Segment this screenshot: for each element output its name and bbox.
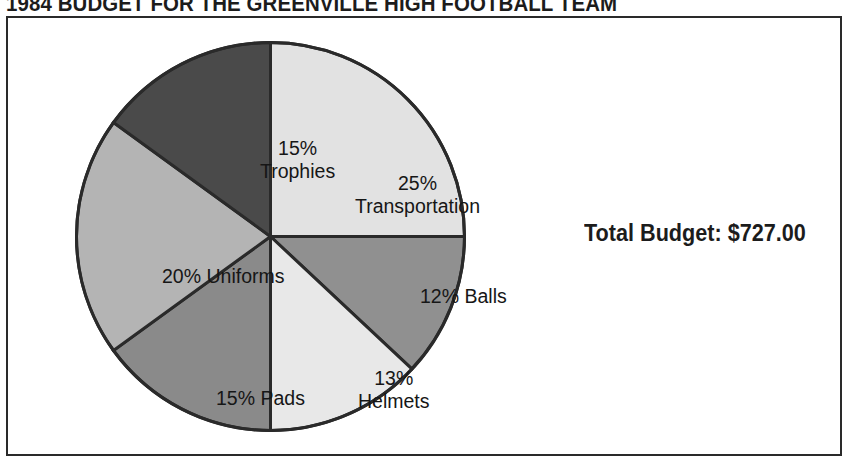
slice-label-balls: 12% Balls bbox=[420, 285, 507, 308]
slice-label-helmets: 13% Helmets bbox=[358, 367, 430, 413]
slice-pct-pads: 15% bbox=[216, 387, 255, 409]
total-budget-text: Total Budget: $727.00 bbox=[584, 218, 806, 248]
slice-pct-trophies: 15% bbox=[260, 137, 335, 160]
slice-cat-pads: Pads bbox=[255, 387, 305, 409]
slice-label-transportation: 25% Transportation bbox=[355, 172, 480, 218]
slice-cat-uniforms: Uniforms bbox=[201, 265, 284, 287]
slice-pct-helmets: 13% bbox=[358, 367, 430, 390]
slice-label-trophies: 15% Trophies bbox=[260, 137, 335, 183]
slice-cat-balls: Balls bbox=[459, 285, 507, 307]
slice-pct-balls: 12% bbox=[420, 285, 459, 307]
slice-pct-uniforms: 20% bbox=[162, 265, 201, 287]
chart-title: 1984 BUDGET FOR THE GREENVILLE HIGH FOOT… bbox=[6, 0, 787, 17]
slice-label-pads: 15% Pads bbox=[216, 387, 305, 410]
slice-label-uniforms: 20% Uniforms bbox=[162, 265, 284, 288]
slice-cat-transportation: Transportation bbox=[355, 195, 480, 218]
slice-cat-trophies: Trophies bbox=[260, 160, 335, 183]
slice-pct-transportation: 25% bbox=[355, 172, 480, 195]
pie-chart: 25% Transportation 15% Trophies 20% Unif… bbox=[74, 40, 467, 433]
slice-cat-helmets: Helmets bbox=[358, 390, 430, 413]
